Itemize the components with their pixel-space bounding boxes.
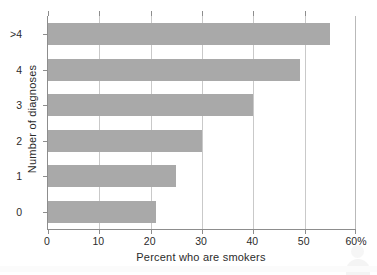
x-tick-0: [48, 229, 49, 234]
y-tick-label-3: 3: [0, 99, 22, 111]
plot-area: [47, 16, 355, 230]
top-tick-20: [151, 11, 152, 16]
x-tick-20: [151, 229, 152, 234]
bar-2: [48, 130, 202, 152]
x-tick-10: [99, 229, 100, 234]
gridline-50: [305, 16, 306, 229]
gridline-40: [253, 16, 254, 229]
gridline-60: [355, 16, 356, 229]
x-axis-title: Percent who are smokers: [47, 251, 355, 263]
x-tick-30: [202, 229, 203, 234]
bar-gt4: [48, 23, 330, 45]
watermark-head: [351, 245, 364, 258]
top-tick-10: [99, 11, 100, 16]
y-axis-title: Number of diagnoses: [26, 9, 38, 229]
bar-0: [48, 201, 156, 223]
x-tick-50: [305, 229, 306, 234]
bar-3: [48, 94, 253, 116]
x-tick-label-10: 10: [73, 235, 123, 247]
top-tick-40: [253, 11, 254, 16]
x-tick-label-30: 30: [176, 235, 226, 247]
x-tick-40: [253, 229, 254, 234]
x-tick-60: [355, 229, 356, 234]
top-tick-0: [48, 11, 49, 16]
gridline-10: [99, 16, 100, 229]
gridline-20: [151, 16, 152, 229]
top-tick-50: [305, 11, 306, 16]
gridline-30: [202, 16, 203, 229]
x-tick-label-20: 20: [125, 235, 175, 247]
y-tick-label-1: 1: [0, 170, 22, 182]
y-tick-label-gt4: >4: [0, 28, 22, 40]
x-tick-label-40: 40: [227, 235, 277, 247]
x-tick-label-50: 50: [279, 235, 329, 247]
top-tick-30: [202, 11, 203, 16]
y-tick-label-4: 4: [0, 64, 22, 76]
bar-1: [48, 165, 176, 187]
y-tick-label-0: 0: [0, 206, 22, 218]
y-tick-label-2: 2: [0, 135, 22, 147]
bar-4: [48, 59, 300, 81]
x-tick-label-0: 0: [22, 235, 72, 247]
page-bottom-strip: [0, 266, 377, 272]
